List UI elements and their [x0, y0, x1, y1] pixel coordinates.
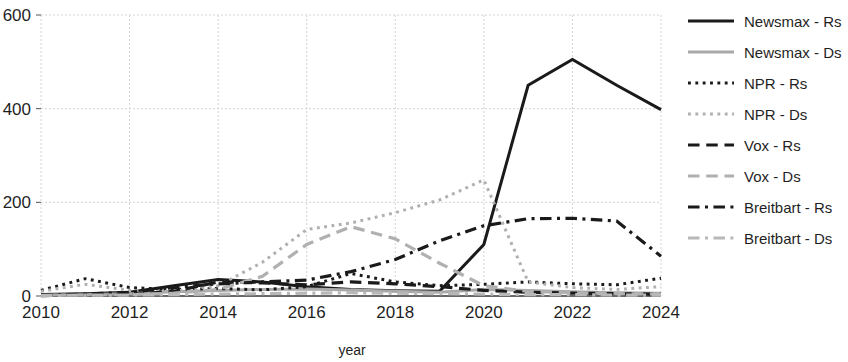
legend-label-npr-rs: NPR - Rs: [744, 75, 807, 92]
x-axis-tick-labels: 20102012201420162018202020222024: [22, 303, 680, 322]
y-tick-label: 200: [3, 193, 31, 212]
x-tick-label: 2022: [554, 303, 592, 322]
y-axis-tick-labels: 0200400600: [3, 6, 41, 306]
legend-label-breitbart-rs: Breitbart - Rs: [744, 199, 832, 216]
legend-label-vox-rs: Vox - Rs: [744, 137, 801, 154]
x-tick-label: 2024: [642, 303, 680, 322]
series-line-newsmax-rs: [41, 59, 661, 294]
legend-label-breitbart-ds: Breitbart - Ds: [744, 230, 832, 247]
chart-figure: 0200400600 20102012201420162018202020222…: [0, 0, 848, 362]
legend-label-vox-ds: Vox - Ds: [744, 168, 801, 185]
series-line-npr-ds: [41, 180, 661, 291]
x-tick-label: 2010: [22, 303, 60, 322]
y-tick-label: 600: [3, 6, 31, 25]
line-chart: 0200400600 20102012201420162018202020222…: [0, 0, 848, 362]
legend-label-newsmax-ds: Newsmax - Ds: [744, 44, 842, 61]
legend-label-npr-ds: NPR - Ds: [744, 106, 807, 123]
x-tick-label: 2014: [199, 303, 237, 322]
x-tick-label: 2018: [376, 303, 414, 322]
series-line-vox-ds: [41, 227, 661, 296]
x-tick-label: 2016: [288, 303, 326, 322]
y-tick-label: 400: [3, 100, 31, 119]
legend-label-newsmax-rs: Newsmax - Rs: [744, 13, 842, 30]
x-tick-label: 2020: [465, 303, 503, 322]
x-axis-title: year: [338, 342, 366, 358]
gridlines: [41, 15, 661, 296]
x-tick-label: 2012: [111, 303, 149, 322]
legend: Newsmax - RsNewsmax - DsNPR - RsNPR - Ds…: [688, 13, 842, 247]
series-lines: [41, 59, 661, 295]
